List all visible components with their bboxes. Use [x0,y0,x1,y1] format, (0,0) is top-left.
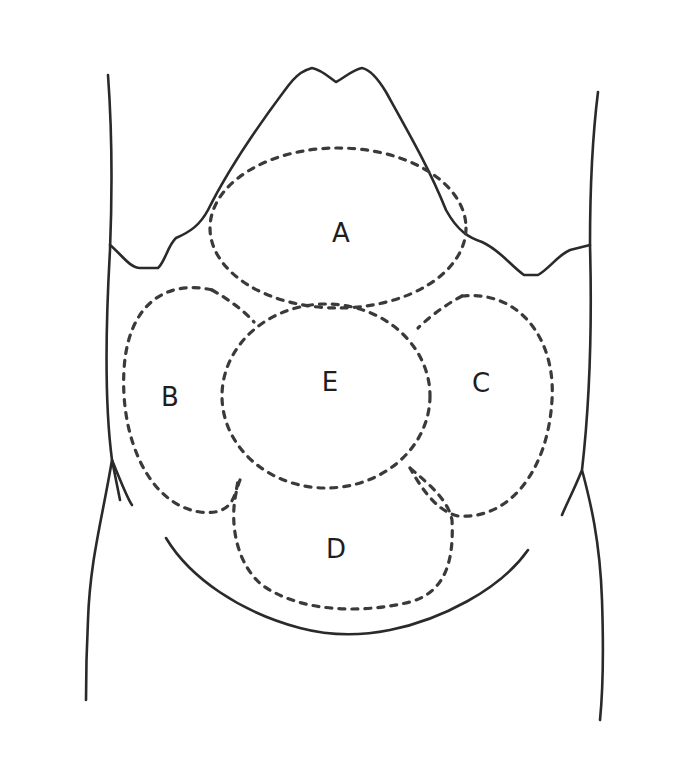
left-flank-inner [112,460,132,505]
region-a-label: A [332,218,350,248]
right-torso-outline [562,92,603,720]
left-torso-outline [86,75,120,700]
region-c-label: C [472,368,490,398]
region-b-label: B [161,382,179,412]
region-c-boundary [410,296,552,517]
lower-abdomen-curve [166,538,528,634]
region-c-inner [418,296,462,328]
region-b-inner [212,290,254,322]
abdomen-diagram: A B C D E [0,0,678,784]
region-e-label: E [322,367,338,397]
rib-cage-outline [110,68,590,275]
region-d-label: D [326,534,346,564]
